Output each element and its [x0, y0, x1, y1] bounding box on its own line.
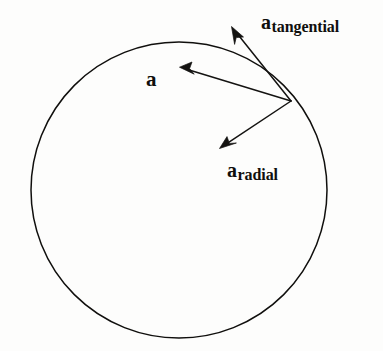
a-radial-subscript: radial — [238, 166, 278, 183]
a-tangential-label: atangential — [261, 12, 339, 32]
vector-a-tangential-arrowhead-icon — [232, 27, 244, 45]
a-tangential-symbol: a — [261, 11, 271, 33]
circular-path-icon — [31, 42, 327, 338]
vector-a-radial — [220, 101, 292, 149]
vector-a-total-shaft — [188, 70, 292, 102]
vector-a-tangential-shaft — [239, 35, 292, 101]
a-total-symbol: a — [146, 67, 157, 91]
a-radial-symbol: a — [227, 159, 237, 181]
acceleration-diagram: atangential a aradial — [0, 0, 383, 351]
a-tangential-subscript: tangential — [272, 18, 339, 35]
vector-a-total-arrowhead-icon — [180, 62, 195, 74]
vector-a-radial-shaft — [228, 101, 292, 143]
vector-a-total — [180, 62, 292, 101]
vector-a-tangential — [232, 27, 292, 102]
a-total-label: a — [146, 69, 157, 90]
a-radial-label: aradial — [227, 160, 278, 180]
diagram-canvas — [0, 0, 383, 351]
